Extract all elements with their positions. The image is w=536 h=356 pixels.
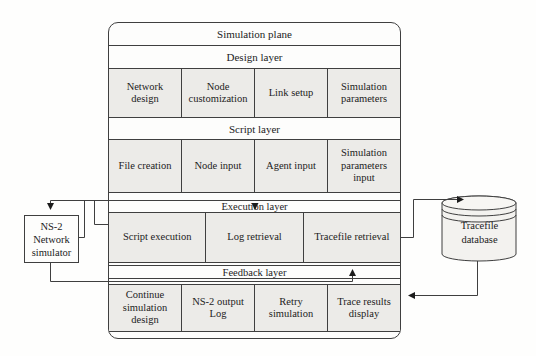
cell-continue-simulation-design: Continue simulation design [109,285,181,331]
cell-agent-input: Agent input [254,140,327,192]
cell-file-creation: File creation [109,140,181,192]
cell-script-execution: Script execution [109,213,205,262]
cell-tracefile-retrieval: Tracefile retrieval [303,213,400,262]
cell-simulation-parameters: Simulation parameters [327,69,400,117]
diagram-canvas: Simulation plane Design layer Network de… [0,0,536,356]
arrow-script-layer-to-ns2 [51,201,110,210]
simulation-plane: Simulation plane Design layer Network de… [108,22,401,339]
script-layer-header: Script layer [109,118,400,140]
cell-ns2-output-log: NS-2 output Log [181,285,254,331]
script-layer-row: File creation Node input Agent input Sim… [109,140,400,193]
cell-node-customization: Node customization [181,69,254,117]
feedback-layer-header: Feedback layer [109,265,400,279]
cell-link-setup: Link setup [254,69,327,117]
line-ns2-right-to-bus [79,201,85,238]
simulation-plane-title: Simulation plane [109,23,400,46]
cell-network-design: Network design [109,69,181,117]
feedback-layer-row: Continue simulation design NS-2 output L… [109,284,400,332]
execution-layer-header: Execution layer [109,200,400,212]
cell-node-input: Node input [181,140,254,192]
design-layer-row: Network design Node customization Link s… [109,69,400,118]
tracefile-database-label: Tracefile database [445,219,514,247]
ns2-network-simulator-box: NS-2 Network simulator [24,215,79,263]
cell-retry-simulation: Retry simulation [254,285,327,331]
design-layer-header: Design layer [109,46,400,69]
cell-simulation-parameters-input: Simulation parameters input [327,140,400,192]
cell-log-retrieval: Log retrieval [205,213,302,262]
cell-trace-results-display: Trace results display [327,285,400,331]
execution-layer-row: Script execution Log retrieval Tracefile… [109,212,400,263]
arrow-database-to-trace-results [409,261,478,296]
line-bus-to-script-execution [95,201,109,225]
